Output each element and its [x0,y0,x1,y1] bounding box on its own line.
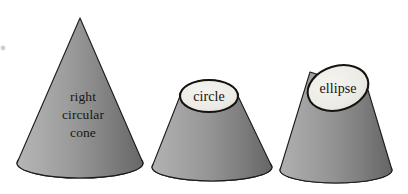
cone-label-line-1: right [70,89,96,104]
truncated-cone-ellipse: ellipse [280,58,392,183]
conic-sections-figure: right circular cone circle ellipse [0,0,408,194]
cone-label-line-2: circular [62,107,104,122]
right-circular-cone: right circular cone [17,18,143,178]
scan-speck [1,46,6,51]
ellipse-section-label: ellipse [319,81,356,96]
truncated-cone-circle: circle [152,80,272,181]
circle-section-label: circle [193,89,225,104]
cone-label-line-3: cone [70,125,96,140]
figure-canvas: right circular cone circle ellipse [0,0,408,194]
